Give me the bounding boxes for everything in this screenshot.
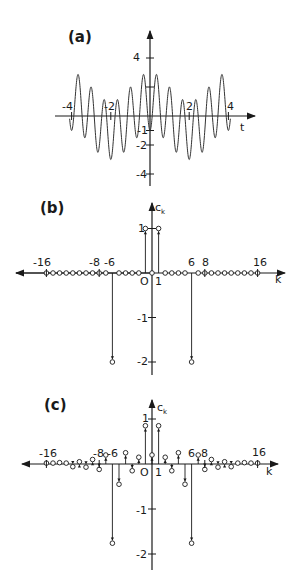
panel-b-ylabel: ck [155, 201, 166, 216]
panel-c-xtick-0: O [140, 466, 149, 479]
panel-a-xtick-4: 4 [227, 100, 234, 113]
stem-point [130, 468, 135, 473]
panel-b-label: (b) [40, 199, 64, 217]
stem-point [64, 461, 69, 466]
stem-point [176, 271, 181, 276]
stem-point [189, 360, 194, 365]
stem-point [71, 271, 76, 276]
stem-point [216, 271, 221, 276]
panel-b: (b) ck k -16 -8 -6 O 1 6 8 16 1 -1 -2 [16, 199, 285, 375]
panel-b-xtick--6: -6 [104, 256, 115, 269]
stem-point [170, 468, 175, 473]
stem-point [110, 360, 115, 365]
stem-point [222, 459, 227, 464]
stem-point [236, 271, 241, 276]
stem-point [130, 271, 135, 276]
stem-point [242, 271, 247, 276]
stem-point [229, 464, 234, 469]
panel-c-xtick--16: -16 [39, 447, 57, 460]
stem-point [163, 455, 168, 460]
figure: (a) t -4 -2 2 4 4 -1 -2 -4 (b) ck k -16 … [0, 0, 301, 585]
panel-c-xtick-8: 8 [201, 447, 208, 460]
panel-c-xtick--6: -6 [107, 447, 118, 460]
panel-c-xtick-16: 16 [252, 446, 266, 459]
stem-point [77, 459, 82, 464]
stem-point [84, 271, 89, 276]
panel-b-xtick-16: 16 [253, 256, 267, 269]
panel-c-xtick-6: 6 [188, 447, 195, 460]
stem-point [209, 457, 214, 462]
stem-point [170, 271, 175, 276]
stem-point [156, 423, 161, 428]
stem-point [117, 482, 122, 487]
panel-b-xlabel: k [275, 273, 282, 286]
panel-b-xtick--16: -16 [33, 256, 51, 269]
panel-c-ytick--2: -2 [136, 548, 147, 561]
stem-point [229, 271, 234, 276]
panel-b-ytick--2: -2 [137, 355, 148, 368]
stem-point [242, 460, 247, 465]
panel-b-ytick-1: 1 [138, 222, 145, 235]
stem-point [196, 453, 201, 458]
panel-c-ylabel: ck [157, 401, 168, 416]
panel-b-xtick--8: -8 [89, 256, 100, 269]
stem-point [209, 271, 214, 276]
panel-a: (a) t -4 -2 2 4 4 -1 -2 -4 [55, 28, 255, 186]
stem-point [249, 271, 254, 276]
stem-point [77, 271, 82, 276]
stem-point [183, 271, 188, 276]
stem-point [216, 465, 221, 470]
stem-point [90, 271, 95, 276]
stem-point [137, 455, 142, 460]
panel-c-xtick-1: 1 [155, 466, 162, 479]
panel-b-xtick-1: 1 [155, 275, 162, 288]
panel-a-xlabel: t [240, 121, 245, 134]
panel-b-xtick-6: 6 [188, 256, 195, 269]
panel-c-xtick--8: -8 [93, 447, 104, 460]
panel-a-label: (a) [68, 28, 92, 46]
stem-point [189, 541, 194, 546]
stem-point [196, 271, 201, 276]
stem-point [57, 460, 62, 465]
panel-c-ytick--1: -1 [136, 504, 147, 517]
stem-point [150, 271, 155, 276]
panel-b-ytick--1: -1 [137, 312, 148, 325]
panel-c-ytick-1: 1 [142, 412, 149, 425]
stem-point [84, 465, 89, 470]
panel-a-ytick--4: -4 [136, 168, 147, 181]
panel-c: (c) ck k -16 -8 -6 O 1 6 8 16 1 -1 -2 [22, 396, 278, 570]
stem-point [222, 271, 227, 276]
panel-a-ytick-4: 4 [133, 51, 140, 64]
stem-point [176, 450, 181, 455]
panel-b-xtick-8: 8 [202, 256, 209, 269]
stem-point [150, 453, 155, 458]
stem-point [163, 271, 168, 276]
stem-point [104, 271, 109, 276]
stem-point [57, 271, 62, 276]
stem-point [64, 271, 69, 276]
stem-point [71, 464, 76, 469]
panel-c-xlabel: k [266, 465, 273, 478]
panel-c-label: (c) [44, 396, 67, 414]
panel-a-xtick--4: -4 [62, 100, 73, 113]
stem-point [110, 541, 115, 546]
stem-point [236, 461, 241, 466]
stem-point [117, 271, 122, 276]
panel-a-ytick--2: -2 [136, 139, 147, 152]
stem-point [123, 271, 128, 276]
stem-point [123, 450, 128, 455]
stem-point [183, 482, 188, 487]
stem-point [249, 461, 254, 466]
stem-point [51, 461, 56, 466]
stem-point [51, 271, 56, 276]
panel-b-xtick-0: O [140, 275, 149, 288]
stem-point [156, 226, 161, 231]
panel-a-xtick-2: 2 [186, 100, 193, 113]
